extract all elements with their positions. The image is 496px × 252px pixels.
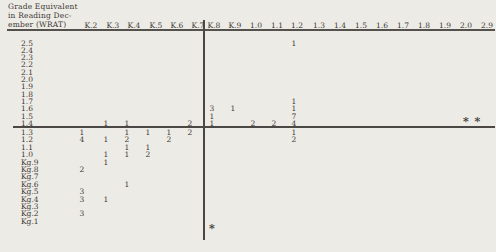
cell-K.4-Kg.6: 1 bbox=[125, 179, 130, 188]
column-header-1.4: 1.4 bbox=[334, 21, 346, 30]
column-header-1.2: 1.2 bbox=[291, 21, 303, 30]
cell-K.7-1.3: 2 bbox=[188, 128, 193, 137]
column-header-1.6: 1.6 bbox=[376, 21, 388, 30]
column-header-K.9: K.9 bbox=[229, 21, 242, 30]
cell-K.3-Kg.9: 1 bbox=[104, 157, 109, 166]
y-axis-title-line3: ember (WRAT) bbox=[8, 20, 78, 29]
cell-1.2-1.2: 2 bbox=[292, 135, 297, 144]
column-header-K.5: K.5 bbox=[150, 21, 163, 30]
cell-K.2-Kg.2: 3 bbox=[80, 209, 85, 218]
cell-K.5-1.0: 2 bbox=[146, 150, 151, 159]
scanned-figure: Grade Equivalent in Reading Dec- ember (… bbox=[0, 0, 496, 252]
cell-1.1-1.4: 2 bbox=[272, 118, 277, 127]
cell-K.6-1.2: 2 bbox=[167, 135, 172, 144]
cell-K.7-1.4: 2 bbox=[188, 118, 193, 127]
row-label-Kg.1: Kg.1 bbox=[21, 216, 39, 225]
column-header-K.6: K.6 bbox=[171, 21, 184, 30]
column-header-K.8: K.8 bbox=[208, 21, 221, 30]
cell-K.2-1.2: 4 bbox=[80, 135, 85, 144]
column-header-2.0: 2.0 bbox=[460, 21, 472, 30]
column-header-K.3: K.3 bbox=[107, 21, 120, 30]
column-header-1.9: 1.9 bbox=[439, 21, 451, 30]
y-axis-title-line1: Grade Equivalent bbox=[8, 2, 78, 11]
cell-K.3-1.4: 1 bbox=[104, 118, 109, 127]
column-header-1.8: 1.8 bbox=[418, 21, 430, 30]
cell-K.3-1.2: 1 bbox=[104, 135, 109, 144]
cell-K.5-1.3: 1 bbox=[146, 128, 151, 137]
cell-K.4-1.4: 1 bbox=[125, 118, 130, 127]
cell-1.2-2.5: 1 bbox=[292, 38, 297, 47]
cell-K.2-Kg.8: 2 bbox=[80, 165, 85, 174]
column-header-1.3: 1.3 bbox=[313, 21, 325, 30]
cell-K.2-Kg.4: 3 bbox=[80, 194, 85, 203]
cell-1.0-1.4: 2 bbox=[251, 118, 256, 127]
column-header-K.4: K.4 bbox=[128, 21, 141, 30]
column-header-1.7: 1.7 bbox=[397, 21, 409, 30]
column-header-1.5: 1.5 bbox=[355, 21, 367, 30]
column-header-1.1: 1.1 bbox=[271, 21, 283, 30]
cell-K.4-1.0: 1 bbox=[125, 150, 130, 159]
cell-1.2-1.4: 4 bbox=[292, 118, 297, 127]
column-header-1.0: 1.0 bbox=[250, 21, 262, 30]
y-axis-title-line2: in Reading Dec- bbox=[8, 11, 78, 20]
column-header-K.7: K.7 bbox=[192, 21, 205, 30]
cell-K.9-1.6: 1 bbox=[231, 104, 236, 113]
cell-K.3-Kg.4: 1 bbox=[104, 194, 109, 203]
vertical-divider-line bbox=[203, 20, 205, 240]
cell-K.8-1.4: 1 bbox=[210, 118, 215, 127]
y-axis-title: Grade Equivalent in Reading Dec- ember (… bbox=[8, 2, 78, 29]
asterisk-annotation-2: * bbox=[475, 114, 481, 127]
asterisk-annotation-3: * bbox=[209, 221, 215, 234]
column-header-2.9: 2.9 bbox=[481, 21, 493, 30]
asterisk-annotation-1: * bbox=[463, 114, 469, 127]
column-header-K.2: K.2 bbox=[85, 21, 98, 30]
row-label-1.4: 1.4 bbox=[21, 118, 33, 127]
